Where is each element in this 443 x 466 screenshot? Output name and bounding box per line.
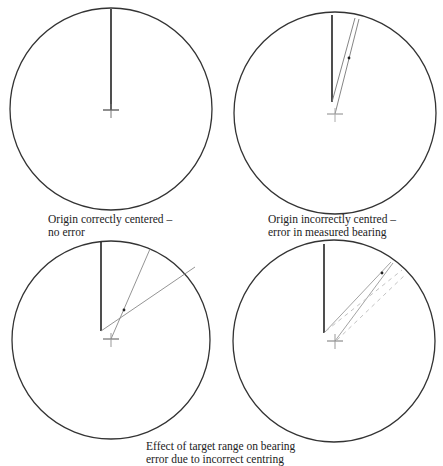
bearing-line-true bbox=[335, 263, 393, 341]
caption-correct-centering: Origin correctly centered – no error bbox=[48, 213, 172, 239]
panel-correct-centering bbox=[10, 8, 212, 210]
target-dot bbox=[381, 272, 384, 275]
centre-cross-icon bbox=[327, 334, 343, 349]
caption-line: error due to incorrect centring bbox=[146, 453, 295, 466]
caption-range-effect: Effect of target range on bearing error … bbox=[146, 440, 295, 466]
target-dot bbox=[123, 309, 126, 312]
panel-range-effect-close bbox=[12, 241, 210, 439]
panel-range-effect-far bbox=[233, 240, 435, 442]
bearing-line-dashed-2 bbox=[337, 274, 406, 340]
centre-cross-icon bbox=[103, 333, 119, 347]
target-dot bbox=[348, 57, 351, 60]
centre-cross-icon bbox=[103, 104, 119, 118]
bearing-line-apparent bbox=[101, 267, 195, 331]
bearing-line-true bbox=[111, 249, 150, 339]
bearing-line-dashed-1 bbox=[326, 270, 402, 331]
caption-incorrect-centering: Origin incorrectly centred – error in me… bbox=[268, 213, 396, 239]
bearing-line-true bbox=[335, 19, 359, 114]
caption-line: error in measured bearing bbox=[268, 226, 396, 239]
caption-line: Origin incorrectly centred – bbox=[268, 213, 396, 226]
caption-line: no error bbox=[48, 226, 172, 239]
bearing-line-apparent bbox=[332, 18, 355, 102]
caption-line: Effect of target range on bearing bbox=[146, 440, 295, 453]
caption-line: Origin correctly centered – bbox=[48, 213, 172, 226]
centre-cross-icon bbox=[327, 108, 343, 122]
panel-incorrect-centering bbox=[234, 12, 436, 214]
